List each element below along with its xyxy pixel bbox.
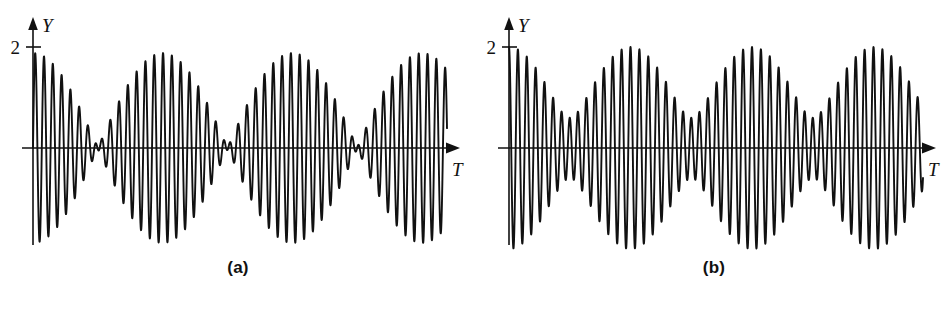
panel-caption-b: (b)	[476, 258, 952, 278]
panel-b: 2 Y T (b)	[476, 0, 952, 310]
y-tick-label: 2	[11, 37, 21, 58]
arrow-up-icon	[28, 17, 38, 30]
y-axis-label: Y	[518, 15, 531, 36]
beats-figure: 2 Y T (a) 2 Y T (b)	[0, 0, 952, 310]
panel-caption-a: (a)	[0, 258, 476, 278]
y-axis-label: Y	[42, 15, 55, 36]
x-axis-label: T	[928, 159, 940, 180]
arrow-right-icon	[922, 143, 936, 154]
waveform-trace	[33, 53, 447, 243]
panel-a: 2 Y T (a)	[0, 0, 476, 310]
arrow-up-icon	[504, 17, 514, 30]
x-axis-label: T	[452, 159, 464, 180]
y-tick-label: 2	[487, 37, 497, 58]
arrow-right-icon	[446, 143, 460, 154]
